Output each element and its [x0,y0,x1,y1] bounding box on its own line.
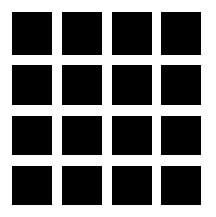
grid-square [161,116,201,155]
grid-square [112,166,152,205]
grid-square [112,65,152,105]
grid-square [62,166,102,205]
grid-square [161,166,201,205]
grid-square [112,116,152,155]
grid-square [161,12,201,55]
grid-square [62,116,102,155]
grid-square [12,12,52,55]
grid-square [112,12,152,55]
grid-square [62,65,102,105]
grid-square [161,65,201,105]
grid-square [62,12,102,55]
square-grid [0,0,216,217]
grid-square [12,116,52,155]
grid-square [12,65,52,105]
grid-square [12,166,52,205]
